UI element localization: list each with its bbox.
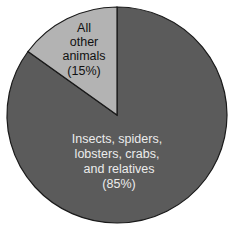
label-insects-line2: lobsters, crabs, — [75, 147, 160, 161]
label-insects-line3: and relatives — [84, 162, 155, 176]
label-insects-line1: Insects, spiders, — [72, 132, 162, 146]
label-other-percent: (15%) — [67, 64, 100, 78]
label-other-line2: other — [70, 35, 99, 49]
label-other-line1: All — [77, 21, 91, 35]
label-other-line3: animals — [62, 49, 105, 63]
pie-chart: All other animals (15%) Insects, spiders… — [0, 0, 233, 227]
label-insects-percent: (85%) — [102, 177, 135, 191]
